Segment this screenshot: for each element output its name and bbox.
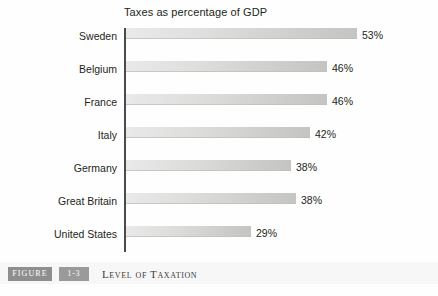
bar-edge	[126, 203, 296, 204]
figure-caption: FIGURE 1-3 Level of Taxation	[0, 265, 438, 282]
category-label: Germany	[0, 162, 117, 174]
category-label: Sweden	[0, 30, 117, 42]
bar-row: Italy 42%	[0, 125, 438, 157]
bar-great-britain	[126, 193, 296, 216]
bar-value-label: 53%	[362, 29, 383, 41]
bar-value-label: 29%	[256, 227, 277, 239]
bar-edge	[126, 137, 310, 138]
bar-united-states	[126, 226, 251, 249]
bar-value-label: 38%	[301, 194, 322, 206]
bar-row: Great Britain 38%	[0, 191, 438, 223]
bar-value-label: 46%	[332, 62, 353, 74]
bar-sweden	[126, 28, 357, 51]
bar-edge	[126, 236, 251, 237]
bar-belgium	[126, 61, 327, 84]
bar-row: Belgium 46%	[0, 59, 438, 91]
bar-edge	[126, 104, 327, 105]
bar-row: France 46%	[0, 92, 438, 124]
bar-italy	[126, 127, 310, 150]
bar-row: Sweden 53%	[0, 26, 438, 58]
bar-value-label: 46%	[332, 95, 353, 107]
bar-row: Germany 38%	[0, 158, 438, 190]
category-label: Italy	[0, 129, 117, 141]
chart-title: Taxes as percentage of GDP	[124, 6, 267, 18]
bar-value-label: 38%	[296, 161, 317, 173]
bar-row: United States 29%	[0, 224, 438, 256]
bar-germany	[126, 160, 291, 183]
figure-number-badge: 1-3	[59, 267, 89, 281]
category-label: Great Britain	[0, 195, 117, 207]
figure-container: Taxes as percentage of GDP Sweden 53% Be…	[0, 0, 438, 296]
bar-edge	[126, 38, 357, 39]
chart-plot-area: Sweden 53% Belgium 46% France	[0, 26, 438, 254]
bar-edge	[126, 170, 291, 171]
figure-caption-title: Level of Taxation	[102, 268, 197, 280]
bar-edge	[126, 71, 327, 72]
bar-france	[126, 94, 327, 117]
category-label: France	[0, 96, 117, 108]
category-label: Belgium	[0, 63, 117, 75]
category-label: United States	[0, 228, 117, 240]
bar-value-label: 42%	[315, 128, 336, 140]
figure-tag-badge: FIGURE	[8, 267, 52, 281]
